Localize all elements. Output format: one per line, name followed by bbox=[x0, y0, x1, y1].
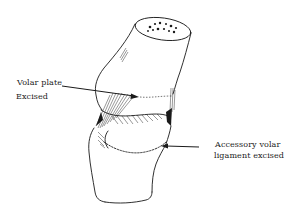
inner-articular-arc bbox=[105, 131, 108, 148]
volar-plate-margin bbox=[140, 96, 172, 97]
accessory-ligament-arrow bbox=[161, 144, 199, 149]
joint-base-line bbox=[104, 142, 166, 153]
lower-bone-left-edge bbox=[89, 128, 105, 202]
upper-bone-left-edge bbox=[95, 24, 135, 110]
lower-bone-bottom bbox=[105, 192, 152, 203]
upper-bone-right-edge bbox=[173, 33, 191, 94]
cancellous-bone-spots bbox=[147, 22, 177, 33]
volar-plate-label-line2: Excised bbox=[16, 92, 48, 102]
arrowhead-icon bbox=[131, 94, 140, 100]
lower-bone-right-edge bbox=[152, 126, 171, 192]
joint-illustration bbox=[0, 0, 292, 217]
accessory-ligament-label-line1: Accessory volar bbox=[215, 140, 280, 150]
bone-outline bbox=[89, 14, 193, 203]
volar-plate-arrow bbox=[62, 86, 139, 99]
accessory-ligament-label-line2: ligament excised bbox=[214, 151, 284, 161]
volar-plate-label-line1: Volar plate bbox=[17, 78, 62, 88]
joint-shadow-right bbox=[166, 108, 172, 126]
